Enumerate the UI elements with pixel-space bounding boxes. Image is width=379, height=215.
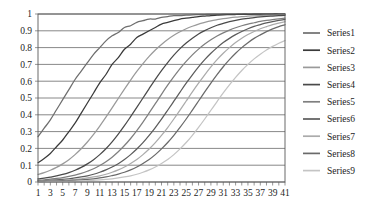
x-axis-label: 39 [268,188,278,198]
y-axis-label: 0.2 [20,144,32,154]
y-axis-label: 1 [27,9,32,19]
x-axis-label: 11 [95,188,104,198]
x-axis-label: 29 [206,188,216,198]
legend-item[interactable]: Series1 [303,28,355,38]
y-axis-label: 0 [27,177,32,187]
x-axis-label: 35 [243,188,253,198]
legend-label-5: Series5 [327,97,355,107]
legend-label-9: Series9 [327,166,355,176]
legend-item[interactable]: Series4 [303,80,355,90]
legend-item[interactable]: Series5 [303,97,355,107]
legend-item[interactable]: Series3 [303,63,355,73]
legend-label-1: Series1 [327,28,355,38]
x-axis-label: 41 [280,188,290,198]
x-axis-label: 33 [231,188,241,198]
x-axis-label: 9 [85,188,90,198]
x-tickmarks [38,182,285,186]
line-chart: 10.90.80.70.60.50.40.30.20.10 1357911131… [0,0,379,215]
x-axis-label: 31 [219,188,229,198]
x-axis-tick-labels: 1357911131517192123252729313335373941 [36,188,290,198]
x-axis-label: 1 [36,188,41,198]
x-axis-label: 19 [144,188,154,198]
legend-label-7: Series7 [327,132,355,142]
y-axis-label: 0.1 [20,161,32,171]
y-axis-label: 0.5 [20,93,32,103]
y-axis-tick-labels: 10.90.80.70.60.50.40.30.20.10 [20,9,32,187]
y-axis-label: 0.6 [20,77,32,87]
legend-item[interactable]: Series8 [303,149,355,159]
legend-label-3: Series3 [327,63,355,73]
legend-item[interactable]: Series9 [303,166,355,176]
legend-label-4: Series4 [327,80,355,90]
x-axis-label: 13 [107,188,117,198]
x-axis-label: 7 [73,188,78,198]
x-axis-label: 27 [194,188,204,198]
legend-label-6: Series6 [327,114,355,124]
x-axis-label: 37 [256,188,266,198]
legend-item[interactable]: Series7 [303,132,355,142]
legend-item[interactable]: Series2 [303,46,355,56]
y-axis-label: 0.9 [20,26,32,36]
y-axis-label: 0.8 [20,43,32,53]
legend-item[interactable]: Series6 [303,114,355,124]
chart-container: 10.90.80.70.60.50.40.30.20.10 1357911131… [0,0,379,215]
x-axis-label: 17 [132,188,142,198]
x-axis-label: 3 [48,188,53,198]
x-axis-label: 15 [120,188,130,198]
y-axis-label: 0.3 [20,127,32,137]
x-axis-label: 5 [60,188,65,198]
legend-label-2: Series2 [327,46,355,56]
x-axis-label: 21 [157,188,167,198]
y-axis-label: 0.7 [20,60,32,70]
legend-label-8: Series8 [327,149,355,159]
y-axis-label: 0.4 [20,110,32,120]
x-axis-label: 23 [169,188,179,198]
x-axis-label: 25 [181,188,191,198]
chart-legend: Series1Series2Series3Series4Series5Serie… [303,28,355,176]
